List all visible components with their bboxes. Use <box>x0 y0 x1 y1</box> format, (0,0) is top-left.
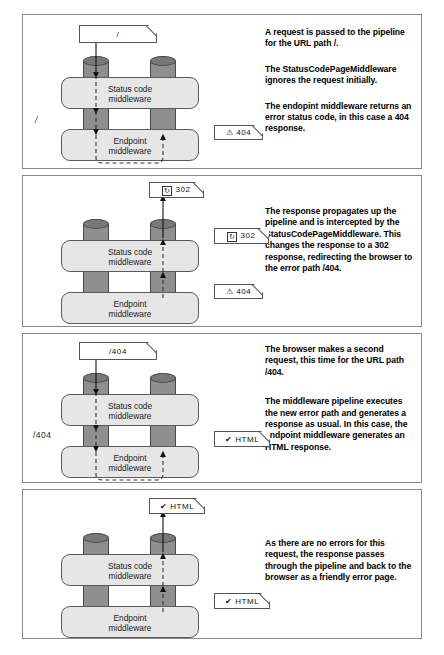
response-document-302-top: ↻302 <box>149 182 204 198</box>
status-badge-404-1: ⚠404 <box>214 125 263 140</box>
redirect-circle-icon: ↻ <box>162 186 172 196</box>
status-badge-html-4-content: ✔HTML <box>225 597 260 606</box>
request-document-label-1: / <box>117 30 120 39</box>
panel-response-propagates: ↻302 Status code middleware Endpoint mid… <box>22 175 422 327</box>
status-badge-302-mid-content: ↻302 <box>227 231 255 242</box>
panel-request-inbound: / Status code middleware Endpoint middle… <box>22 14 422 169</box>
doc-fold-line <box>256 228 269 241</box>
status-badge-404-1-text: 404 <box>236 128 251 137</box>
url-path-label-1: / <box>35 115 37 125</box>
response-document-html-top: ✔HTML <box>149 498 205 514</box>
doc-fold-line <box>250 125 263 138</box>
status-badge-html-3: ✔HTML <box>214 431 270 447</box>
panel-second-request: /404 Status code middleware Endpoint mid… <box>22 333 422 483</box>
check-mark-icon: ✔ <box>225 436 233 444</box>
pipeline-diagram-2: ↻302 Status code middleware Endpoint mid… <box>23 176 268 326</box>
pipeline-diagram-1: / Status code middleware Endpoint middle… <box>23 15 268 168</box>
panel-3-description: The browser makes a second request, this… <box>265 334 415 492</box>
status-badge-404-2-content: ⚠404 <box>226 287 252 296</box>
redirect-circle-icon: ↻ <box>227 232 237 242</box>
doc-fold-line <box>144 342 157 355</box>
doc-fold-line <box>144 25 157 38</box>
url-path-label-3: /404 <box>33 430 52 440</box>
pipeline-diagram-4: ✔HTML Status code middleware Endpoint mi… <box>23 490 268 638</box>
response-document-html-top-text: HTML <box>170 502 194 511</box>
panel-friendly-error-page: ✔HTML Status code middleware Endpoint mi… <box>22 489 422 639</box>
check-mark-icon: ✔ <box>225 598 233 606</box>
doc-fold-line <box>191 182 204 195</box>
warning-triangle-icon: ⚠ <box>226 129 234 137</box>
panel-1-paragraph-3: The endopint middleware returns an error… <box>265 101 415 135</box>
status-badge-html-3-content: ✔HTML <box>225 435 260 444</box>
status-badge-html-4-text: HTML <box>235 597 259 606</box>
panel-4-description: As there are no errors for this request,… <box>265 490 415 655</box>
panel-1-paragraph-2: The StatusCodePageMiddleware ignores the… <box>265 64 415 87</box>
panel-1-description: A request is passed to the pipeline for … <box>265 15 415 180</box>
status-badge-html-4: ✔HTML <box>214 593 270 609</box>
response-document-html-top-content: ✔HTML <box>160 502 195 511</box>
flow-arrows-2 <box>23 176 268 326</box>
status-badge-404-1-content: ⚠404 <box>226 128 252 137</box>
request-document-3: /404 <box>79 342 157 360</box>
panel-1-paragraph-1: A request is passed to the pipeline for … <box>265 27 415 50</box>
pipeline-diagram-3: /404 Status code middleware Endpoint mid… <box>23 334 268 482</box>
diagram-panels-container: / Status code middleware Endpoint middle… <box>0 0 444 655</box>
status-badge-302-mid: ↻302 <box>214 228 269 244</box>
response-document-302-top-text: 302 <box>175 185 190 194</box>
response-document-302-top-content: ↻302 <box>162 185 190 196</box>
check-mark-icon: ✔ <box>160 503 168 511</box>
status-badge-404-2: ⚠404 <box>214 284 263 299</box>
request-document-label-3: /404 <box>109 347 127 356</box>
status-badge-html-3-text: HTML <box>235 435 259 444</box>
panel-2-description: The response propagates up the pipeline … <box>265 176 415 356</box>
panel-2-paragraph-1: The response propagates up the pipeline … <box>265 206 415 274</box>
doc-fold-line <box>250 284 263 297</box>
status-badge-302-mid-text: 302 <box>240 231 255 240</box>
panel-3-paragraph-2: The middleware pipeline executes the new… <box>265 396 415 453</box>
warning-triangle-icon: ⚠ <box>226 288 234 296</box>
panel-3-paragraph-1: The browser makes a second request, this… <box>265 344 415 378</box>
request-document-1: / <box>79 25 157 43</box>
panel-4-paragraph-1: As there are no errors for this request,… <box>265 538 415 584</box>
status-badge-404-2-text: 404 <box>236 287 251 296</box>
flow-arrows-4 <box>23 490 268 638</box>
